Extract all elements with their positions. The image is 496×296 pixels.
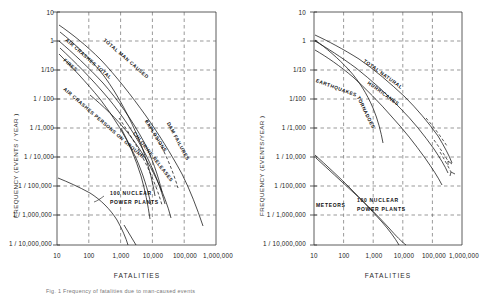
chart-panel-natural: FREQUENCY (EVENTS/YEAR ) 10 1 1/10 1/100… <box>248 0 496 296</box>
y-tick-left-7: 1 / 1,000,000 <box>2 211 52 218</box>
y-tick-left-3: 1 / 100 <box>6 95 54 102</box>
x-axis-label-right: FATALITIES <box>348 272 428 279</box>
chart-panel-man-caused: FREQUENCY (EVENTS / YEAR ) 10 1 1/10 1 /… <box>0 0 248 296</box>
y-tick-right-7: 1 / 1,000,000 <box>250 211 306 218</box>
tail-arrow-2 <box>450 172 455 176</box>
risk-comparison-figure: FREQUENCY (EVENTS / YEAR ) 10 1 1/10 1 /… <box>0 0 496 296</box>
annotation-nuclear-line2: POWER PLANTS <box>110 199 159 205</box>
x-axis-label-left: FATALITIES <box>97 272 177 279</box>
y-tick-right-1: 1 <box>258 37 306 44</box>
x-tick-right-5: 1,000,000 <box>442 252 486 259</box>
x-tick-left-0: 10 <box>45 252 69 259</box>
x-tick-left-3: 10,000 <box>136 252 170 259</box>
x-tick-left-1: 100 <box>76 252 102 259</box>
x-tick-right-2: 1,000 <box>359 252 389 259</box>
x-tick-right-0: 10 <box>302 252 326 259</box>
x-tick-left-2: 1,000 <box>106 252 136 259</box>
y-tick-right-0: 10 <box>258 9 306 16</box>
curve-hurricanes <box>315 41 448 173</box>
y-tick-right-6: 1 /100,000 <box>254 182 306 189</box>
y-tick-left-0: 10 <box>6 9 54 16</box>
annotation-nuclear-line1: 100 NUCLEAR <box>357 197 399 203</box>
x-tick-right-1: 100 <box>331 252 357 259</box>
y-tick-right-8: 1 / 10,000,000 <box>248 240 306 247</box>
y-tick-left-8: 1 / 10,000,000 <box>0 240 52 247</box>
y-tick-left-5: 1 / 10,000 <box>6 153 54 160</box>
y-tick-left-1: 1 <box>6 37 54 44</box>
x-tick-left-5: 1,000,000 <box>196 252 240 259</box>
y-tick-right-3: 1/100 <box>258 95 306 102</box>
annotation-nuclear-line2: POWER PLANTS <box>357 206 406 212</box>
curve-air-crashes-total <box>60 32 155 196</box>
y-tick-left-4: 1 /1,000 <box>6 124 54 131</box>
annotation-nuclear-line1: 100 NUCLEAR <box>110 190 152 196</box>
y-tick-right-4: 1 /1,000 <box>258 124 306 131</box>
y-tick-left-2: 1/10 <box>6 66 54 73</box>
y-tick-right-5: 1 / 10,000 <box>256 153 306 160</box>
curve-label-meteors: METEORS <box>316 202 346 208</box>
curve-nuclear-power-plants <box>58 178 128 245</box>
y-tick-right-2: 1/10 <box>258 66 306 73</box>
figure-caption: Fig. 1 Frequency of fatalities due to ma… <box>46 288 195 294</box>
curve-steep-tail <box>124 225 136 245</box>
y-tick-left-6: 1 / 100,000 <box>4 182 52 189</box>
